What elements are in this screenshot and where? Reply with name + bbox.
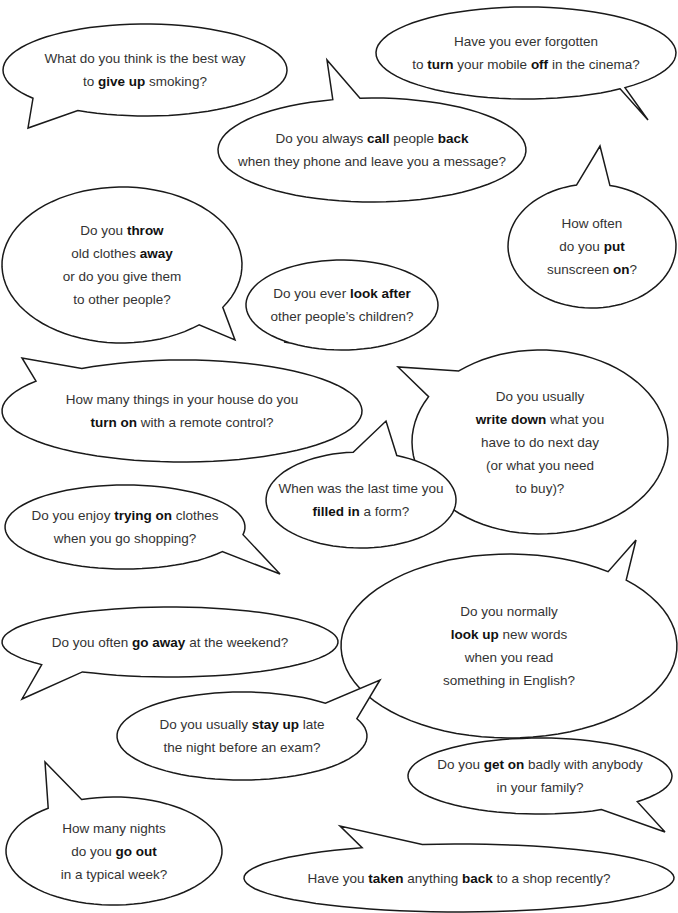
text-segment: in the cinema? [548,57,640,72]
phrasal-verb: turn on [90,415,137,430]
question-line: How many nights [61,817,168,840]
bubble-question-stay-up: Do you usually stay up latethe night bef… [159,713,324,759]
question-line: Have you ever forgotten [412,30,639,53]
phrasal-verb: trying on [114,508,172,523]
phrasal-verb: turn [427,57,453,72]
question-line: turn on with a remote control? [66,411,299,434]
text-segment: to buy)? [516,481,565,496]
text-segment: smoking? [145,74,207,89]
text-segment: at the weekend? [185,635,288,650]
bubble-question-go-out: How many nightsdo you go outin a typical… [61,817,168,886]
text-segment: late [299,717,325,732]
question-line: Have you taken anything back to a shop r… [307,867,610,890]
question-line: old clothes away [63,242,182,265]
text-segment: Do you [437,757,484,772]
text-segment: Have you ever forgotten [454,34,598,49]
text-segment: something in English? [443,673,575,688]
text-segment: How many nights [62,821,166,836]
question-line: What do you think is the best way [44,47,245,70]
text-segment: with a remote control? [137,415,274,430]
question-line: to other people? [63,288,182,311]
text-segment: new words [499,627,567,642]
bubble-question-filled-in: When was the last time youfilled in a fo… [278,477,443,523]
text-segment: to [83,74,98,89]
bubble-question-throw-away: Do you throwold clothes awayor do you gi… [63,219,182,311]
phrasal-verb: back [438,131,469,146]
text-segment: other people’s children? [270,309,413,324]
text-segment: in your family? [496,780,583,795]
text-segment: badly with anybody [524,757,643,772]
question-line: to turn your mobile off in the cinema? [412,53,639,76]
question-line: something in English? [443,669,575,692]
question-line: Do you always call people back [238,127,506,150]
bubble-question-turn-on: How many things in your house do youturn… [66,388,299,434]
text-segment: (or what you need [486,458,594,473]
question-line: Do you get on badly with anybody [437,753,643,776]
phrasal-verb: call [367,131,390,146]
bubble-question-turn-off: Have you ever forgottento turn your mobi… [412,30,639,76]
bubble-question-get-on: Do you get on badly with anybodyin your … [437,753,643,799]
bubble-question-call-back: Do you always call people backwhen they … [238,127,506,173]
text-segment: Do you often [52,635,132,650]
bubble-question-write-down: Do you usuallywrite down what youhave to… [476,385,604,500]
text-segment: Do you normally [460,604,558,619]
text-segment: a form? [360,504,410,519]
question-line: when you read [443,646,575,669]
text-segment: what you [546,412,604,427]
text-segment: Do you enjoy [32,508,115,523]
question-line: Do you enjoy trying on clothes [32,504,219,527]
text-segment: to a shop recently? [493,871,611,886]
text-segment: Do you always [276,131,368,146]
question-line: Do you usually stay up late [159,713,324,736]
text-segment: Have you [307,871,368,886]
text-segment: Do you ever [273,286,350,301]
text-segment: people [390,131,438,146]
question-line: other people’s children? [270,305,413,328]
text-segment: your mobile [454,57,531,72]
text-segment: sunscreen [547,262,613,277]
bubble-question-look-after: Do you ever look afterother people’s chi… [270,282,413,328]
text-segment: ? [630,262,638,277]
text-segment: Do you [80,223,127,238]
bubble-question-trying-on: Do you enjoy trying on clotheswhen you g… [32,504,219,550]
question-line: filled in a form? [278,500,443,523]
question-line: in your family? [437,776,643,799]
question-line: to buy)? [476,477,604,500]
phrasal-verb: stay up [252,717,299,732]
text-segment: How many things in your house do you [66,392,299,407]
question-line: Do you throw [63,219,182,242]
phrasal-verb: get on [484,757,525,772]
text-segment: when you read [465,650,554,665]
phrasal-verb: on [613,262,630,277]
question-line: Do you usually [476,385,604,408]
question-line: Do you often go away at the weekend? [52,631,288,654]
question-line: the night before an exam? [159,736,324,759]
text-segment: do you [71,844,115,859]
phrasal-verb: throw [127,223,164,238]
bubble-question-look-up: Do you normallylook up new wordswhen you… [443,600,575,692]
phrasal-verb: look up [451,627,499,642]
text-segment: How often [562,216,623,231]
phrasal-verb: back [462,871,493,886]
question-line: (or what you need [476,454,604,477]
text-segment: old clothes [71,246,139,261]
text-segment: when they phone and leave you a message? [238,154,506,169]
text-segment: clothes [172,508,219,523]
text-segment: anything [403,871,462,886]
question-line: do you go out [61,840,168,863]
text-segment: do you [559,239,603,254]
bubble-question-go-away: Do you often go away at the weekend? [52,631,288,654]
phrasal-verb: put [604,239,625,254]
question-line: have to do next day [476,431,604,454]
text-segment: Do you usually [496,389,585,404]
bubble-question-taken-back: Have you taken anything back to a shop r… [307,867,610,890]
question-line: in a typical week? [61,863,168,886]
question-line: do you put [547,235,637,258]
question-line: Do you ever look after [270,282,413,305]
question-line: How often [547,212,637,235]
question-line: or do you give them [63,265,182,288]
phrasal-verb: filled in [313,504,360,519]
phrasal-verb: give up [98,74,145,89]
question-line: write down what you [476,408,604,431]
phrasal-verb: away [140,246,173,261]
